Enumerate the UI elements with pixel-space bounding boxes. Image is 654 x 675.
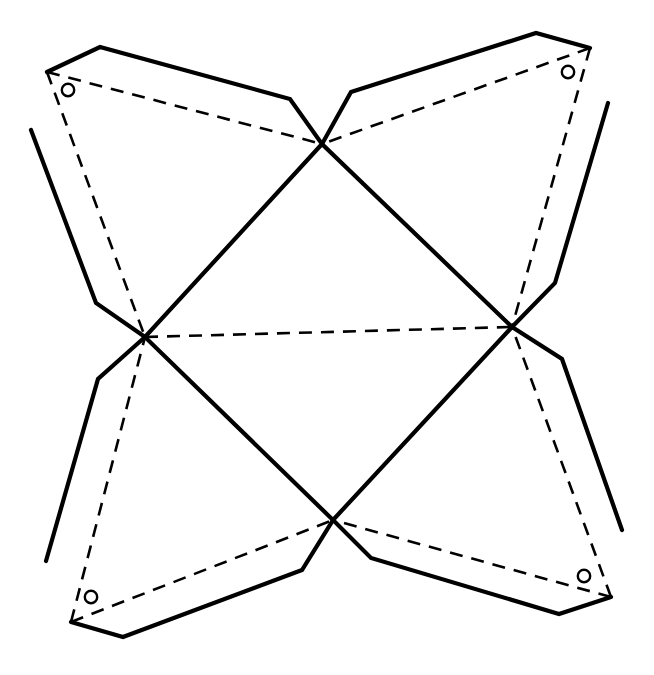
figure-canvas [0, 0, 654, 675]
punch-hole-bottom-left [85, 591, 97, 603]
punch-hole-top-left [62, 84, 74, 96]
net-diagram [0, 0, 654, 675]
punch-hole-bottom-right [578, 570, 590, 582]
punch-hole-top-right [562, 66, 574, 78]
